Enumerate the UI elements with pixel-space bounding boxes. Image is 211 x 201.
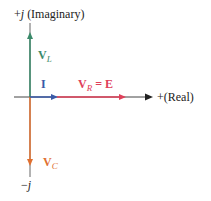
real-positive-label: +(Real) bbox=[157, 91, 194, 103]
vl-arrowhead-icon bbox=[27, 32, 33, 39]
i-label: I bbox=[41, 78, 46, 90]
vc-sub: C bbox=[52, 161, 58, 171]
plus-sign: + bbox=[14, 7, 21, 21]
vl-sub: L bbox=[47, 54, 52, 64]
vl-label: VL bbox=[38, 49, 52, 65]
i-arrowhead-icon bbox=[51, 94, 58, 100]
vc-arrowhead-icon bbox=[27, 159, 33, 166]
vl-main: V bbox=[38, 48, 47, 62]
j-symbol: j bbox=[28, 178, 31, 192]
real-text: +(Real) bbox=[157, 90, 194, 104]
vr-arrowhead-icon bbox=[119, 94, 126, 100]
imaginary-text: (Imaginary) bbox=[24, 7, 84, 21]
real-axis-arrowhead-icon bbox=[145, 94, 153, 101]
vr-eq: = E bbox=[92, 77, 113, 91]
vc-label: VC bbox=[43, 156, 58, 172]
minus-sign: − bbox=[21, 178, 28, 192]
imaginary-positive-label: +j (Imaginary) bbox=[14, 8, 84, 20]
i-main: I bbox=[41, 77, 46, 91]
imaginary-negative-label: −j bbox=[21, 179, 31, 191]
vr-label: VR = E bbox=[78, 78, 113, 94]
vr-main: V bbox=[78, 77, 87, 91]
vc-main: V bbox=[43, 155, 52, 169]
